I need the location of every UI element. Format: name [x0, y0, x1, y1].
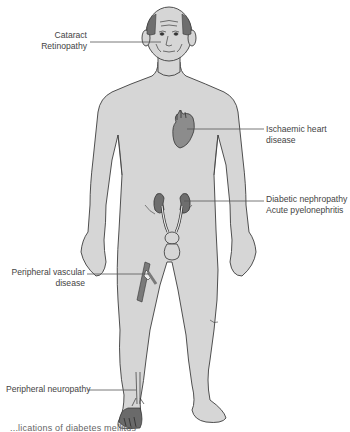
body-outline	[81, 7, 256, 429]
label-vascular-disease: Peripheral vascular disease	[4, 267, 85, 289]
label-peripheral-vascular: Peripheral vascular	[4, 267, 85, 278]
label-neuropathy: Peripheral neuropathy	[6, 384, 91, 395]
label-cataract: Cataract	[30, 30, 87, 41]
label-retinopathy: Retinopathy	[30, 41, 87, 52]
label-ischaemic-heart: Ischaemic heart	[266, 124, 327, 135]
label-eye-complications: Cataract Retinopathy	[30, 30, 87, 52]
label-kidney-complications: Diabetic nephropathy Acute pyelonephriti…	[266, 194, 347, 216]
label-vascular-disease-2: disease	[4, 278, 85, 289]
figure-caption: ...lications of diabetes mellitus	[10, 423, 136, 432]
label-peripheral-neuropathy: Peripheral neuropathy	[6, 384, 91, 395]
label-acute-pyelonephritis: Acute pyelonephritis	[266, 205, 347, 216]
body-figure	[0, 0, 350, 432]
label-heart-disease-2: disease	[266, 135, 327, 146]
label-diabetic-nephropathy: Diabetic nephropathy	[266, 194, 347, 205]
label-heart-disease: Ischaemic heart disease	[266, 124, 327, 146]
